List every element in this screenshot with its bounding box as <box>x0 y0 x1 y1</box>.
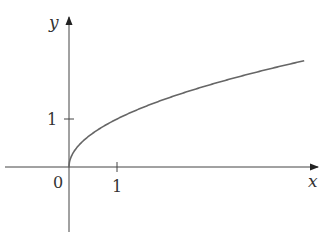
x-tick-label-1: 1 <box>112 177 122 196</box>
origin-label: 0 <box>53 173 63 192</box>
y-axis-label: y <box>48 12 59 32</box>
sqrt-curve <box>69 61 304 167</box>
sqrt-graph: y x 1 1 0 <box>0 0 322 251</box>
y-tick-label-1: 1 <box>47 110 57 129</box>
x-axis-label: x <box>308 171 318 191</box>
